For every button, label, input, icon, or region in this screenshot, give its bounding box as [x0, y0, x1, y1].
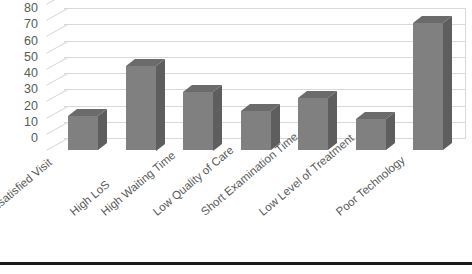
bar-side-face-1	[98, 109, 107, 150]
bar-4	[241, 103, 271, 150]
bar-6	[356, 111, 386, 150]
bar-front-6	[356, 119, 386, 150]
y-tick-label-50: 50	[24, 51, 38, 64]
x-axis-labels: Unsatisfied VisitHigh LoSHigh Waiting Ti…	[0, 150, 472, 220]
bar-chart: 80706050403020100 Unsatisfied VisitHigh …	[0, 0, 472, 274]
bar-5	[298, 90, 328, 150]
y-tick-label-40: 40	[24, 67, 38, 80]
bars-layer	[46, 8, 466, 150]
bar-1	[68, 108, 98, 150]
bar-side-face-2	[156, 58, 165, 150]
bar-front-1	[68, 116, 98, 150]
bar-front-2	[126, 66, 156, 151]
bar-side-face-3	[213, 84, 222, 150]
y-tick-label-70: 70	[24, 18, 38, 31]
bar-2	[126, 58, 156, 151]
bar-front-7	[413, 23, 443, 150]
bar-front-5	[298, 98, 328, 150]
axis-depth-line-top	[46, 0, 67, 5]
y-tick-label-30: 30	[24, 83, 38, 96]
bar-3	[183, 84, 213, 151]
y-tick-label-80: 80	[24, 2, 38, 15]
y-tick-label-60: 60	[24, 34, 38, 47]
bar-7	[413, 15, 443, 150]
x-label-1: Unsatisfied Visit	[0, 157, 54, 218]
bar-side-face-7	[443, 16, 452, 150]
y-axis: 80706050403020100	[0, 8, 44, 150]
bar-side-face-6	[386, 112, 395, 150]
bar-front-4	[241, 111, 271, 150]
y-tick-label-0: 0	[31, 132, 38, 145]
y-tick-label-10: 10	[24, 116, 38, 129]
bar-front-3	[183, 92, 213, 151]
y-tick-label-20: 20	[24, 99, 38, 112]
bottom-divider	[0, 262, 472, 265]
x-label-7: Poor Technology	[335, 154, 408, 218]
